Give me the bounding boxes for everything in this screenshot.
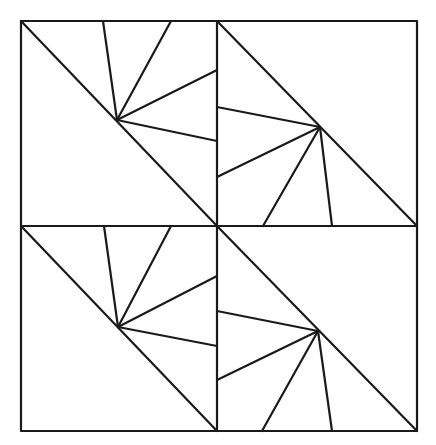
top-left-ray-2 xyxy=(117,21,171,120)
bottom-left-diagonal xyxy=(21,226,217,431)
bottom-left-ray-3 xyxy=(118,276,217,327)
bottom-left-ray-2 xyxy=(118,226,171,327)
bottom-right-ray-4 xyxy=(318,331,332,431)
top-left-diagonal xyxy=(21,21,217,226)
bottom-right-ray-3 xyxy=(262,331,318,431)
top-left-ray-1 xyxy=(103,21,117,120)
top-right-ray-4 xyxy=(320,127,332,226)
bottom-right-diagonal xyxy=(217,226,417,431)
top-left-ray-3 xyxy=(117,70,217,120)
bottom-left-ray-1 xyxy=(104,226,118,327)
quadrant-fan-diagram xyxy=(0,0,436,445)
bottom-right-ray-2 xyxy=(217,331,318,380)
top-right-diagonal xyxy=(217,21,417,226)
